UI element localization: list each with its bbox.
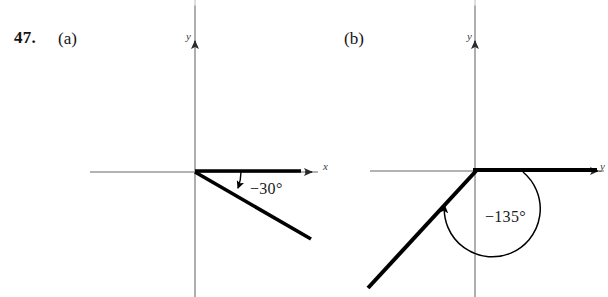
diagram-a-y-axis-label: y [186, 31, 191, 42]
figure-page: 47. (a) (b) y x y y −30° −135° [0, 0, 608, 297]
problem-number: 47. [14, 29, 36, 46]
diagram-a-angle-label: −30° [250, 181, 283, 197]
diagram-b-x-axis-label: y [600, 161, 605, 172]
diagram-a-group [90, 5, 318, 297]
diagram-b-angle-label: −135° [485, 209, 526, 225]
angle-diagrams-canvas [0, 0, 608, 297]
diagram-b-y-axis-label: y [467, 31, 472, 42]
part-a-label: (a) [58, 30, 77, 47]
part-b-label: (b) [344, 30, 364, 47]
diagram-a-angle-arc [238, 172, 241, 188]
diagram-b-terminal-ray [368, 171, 476, 288]
diagram-b-group [368, 5, 604, 297]
diagram-a-x-axis-label: x [323, 161, 328, 172]
